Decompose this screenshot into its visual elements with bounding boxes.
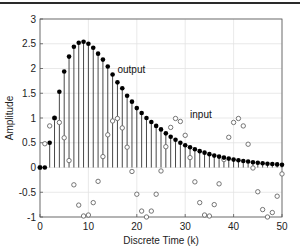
- output-marker: [81, 39, 86, 44]
- input-marker: [125, 145, 129, 149]
- output-marker: [125, 93, 130, 98]
- input-marker: [251, 166, 255, 170]
- input-marker: [202, 213, 206, 217]
- input-marker: [241, 124, 245, 128]
- input-marker: [91, 200, 95, 204]
- output-marker: [86, 41, 91, 46]
- input-marker: [212, 202, 216, 206]
- x-tick-label: 30: [180, 221, 192, 232]
- output-marker: [202, 150, 207, 155]
- output-marker: [164, 131, 169, 136]
- output-marker: [120, 86, 125, 91]
- output-marker: [217, 154, 222, 159]
- output-marker: [67, 54, 72, 59]
- output-marker: [280, 162, 285, 167]
- y-tick-label: 0.5: [22, 137, 36, 148]
- input-marker: [164, 145, 168, 149]
- y-tick-label: 2.5: [22, 38, 36, 49]
- input-marker: [62, 136, 66, 140]
- output-marker: [178, 140, 183, 145]
- output-marker: [265, 161, 270, 166]
- input-marker: [280, 172, 284, 176]
- output-marker: [96, 51, 101, 56]
- input-marker: [72, 183, 76, 187]
- output-marker: [139, 111, 144, 116]
- input-marker: [173, 116, 177, 120]
- output-marker: [105, 64, 110, 69]
- y-tick-label: 2: [30, 63, 36, 74]
- output-marker: [255, 160, 260, 165]
- input-marker: [265, 215, 269, 219]
- output-marker: [101, 57, 106, 62]
- x-tick-label: 10: [83, 221, 95, 232]
- y-axis-label: Amplitude: [4, 95, 15, 140]
- output-marker: [115, 80, 120, 85]
- input-marker: [270, 210, 274, 214]
- x-tick-label: 50: [276, 221, 288, 232]
- output-marker: [231, 157, 236, 162]
- input-marker: [256, 190, 260, 194]
- output-marker: [236, 158, 241, 163]
- input-marker: [144, 215, 148, 219]
- output-marker: [38, 165, 43, 170]
- output-marker: [130, 99, 135, 104]
- x-axis-label: Discrete Time (k): [123, 235, 199, 246]
- output-marker: [260, 161, 265, 166]
- output-marker: [212, 153, 217, 158]
- output-marker: [222, 155, 227, 160]
- input-marker: [77, 203, 81, 207]
- output-marker: [275, 162, 280, 167]
- input-marker: [86, 213, 90, 217]
- input-marker: [67, 158, 71, 162]
- output-marker: [144, 116, 149, 121]
- output-marker: [76, 40, 81, 45]
- output-marker: [154, 124, 159, 129]
- input-marker: [246, 142, 250, 146]
- output-marker: [183, 143, 188, 148]
- output-marker: [159, 127, 164, 132]
- input-marker: [217, 182, 221, 186]
- output-marker: [72, 44, 77, 49]
- input-marker: [260, 207, 264, 211]
- input-marker: [275, 194, 279, 198]
- output-marker: [207, 152, 212, 157]
- output-marker: [135, 106, 140, 111]
- output-marker: [43, 165, 48, 170]
- input-marker: [149, 209, 153, 213]
- input-marker: [139, 209, 143, 213]
- output-marker: [270, 162, 275, 167]
- input-marker: [43, 142, 47, 146]
- x-tick-label: 0: [37, 221, 43, 232]
- input-marker: [81, 214, 85, 218]
- input-marker: [154, 192, 158, 196]
- input-marker: [135, 192, 139, 196]
- x-tick-label: 20: [131, 221, 143, 232]
- output-marker: [197, 149, 202, 154]
- output-marker: [188, 145, 193, 150]
- output-marker: [149, 120, 154, 125]
- input-marker: [231, 120, 235, 124]
- input-marker: [115, 116, 119, 120]
- input-marker: [57, 120, 61, 124]
- y-tick-label: 1.5: [22, 88, 36, 99]
- output-marker: [226, 156, 231, 161]
- input-marker: [207, 214, 211, 218]
- output-marker: [47, 140, 52, 145]
- annotation-output: output: [117, 64, 145, 75]
- input-marker: [236, 116, 240, 120]
- input-marker: [96, 179, 100, 183]
- input-marker: [47, 124, 51, 128]
- output-marker: [57, 89, 62, 94]
- input-marker: [159, 169, 163, 173]
- input-marker: [110, 119, 114, 123]
- output-marker: [91, 45, 96, 50]
- output-marker: [173, 137, 178, 142]
- input-marker: [106, 133, 110, 137]
- input-marker: [198, 200, 202, 204]
- input-marker: [193, 180, 197, 184]
- x-tick-label: 40: [228, 221, 240, 232]
- y-tick-label: 0: [30, 162, 36, 173]
- input-marker: [178, 119, 182, 123]
- input-marker: [227, 135, 231, 139]
- output-marker: [62, 69, 67, 74]
